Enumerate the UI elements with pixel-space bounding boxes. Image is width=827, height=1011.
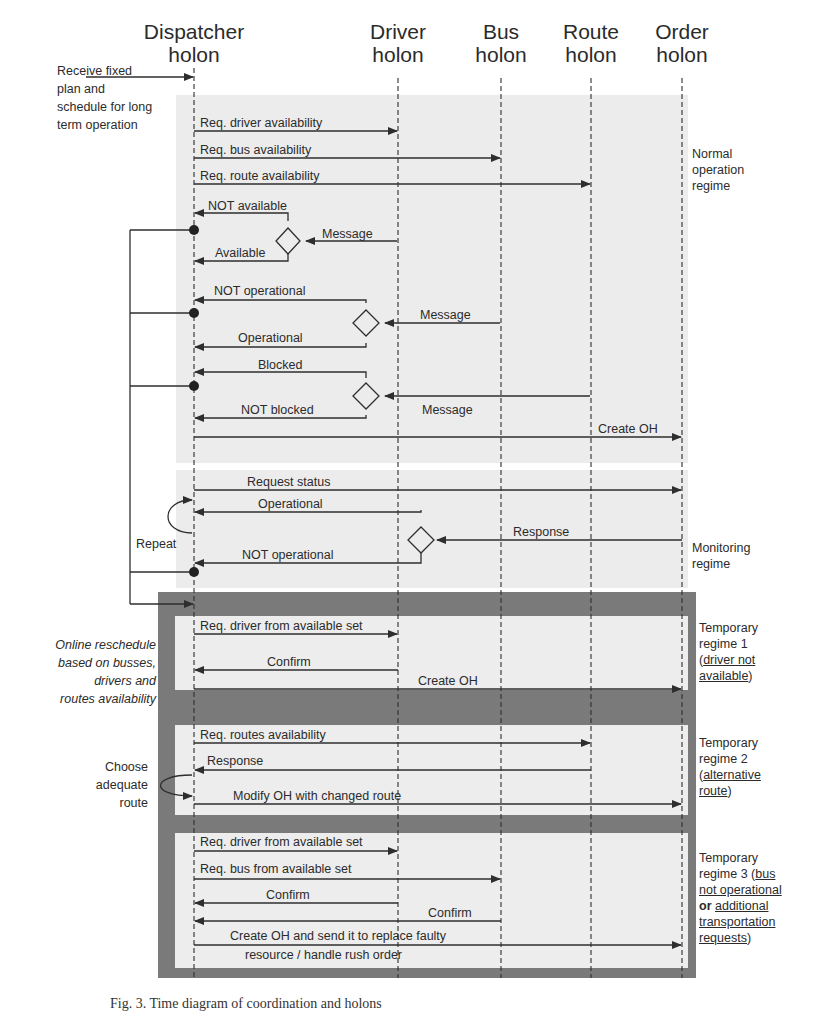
- choose-route-loop-arrow: [161, 775, 193, 796]
- temporary-regime-2-label: Temporary regime 2 (alternative route): [699, 735, 761, 799]
- msg-response: Response: [513, 525, 569, 539]
- decision-diamond-monitor: [408, 527, 434, 553]
- label-line: regime 2: [699, 751, 761, 767]
- note-line: Choose: [70, 758, 148, 776]
- label-line: Monitoring: [692, 540, 750, 556]
- label-condition: route: [699, 784, 728, 798]
- note-line: Online reschedule: [20, 636, 156, 654]
- monitoring-regime-label: Monitoring regime: [692, 540, 750, 572]
- label-line: Temporary: [699, 735, 761, 751]
- note-line: Receive fixed: [57, 62, 152, 80]
- label-condition: alternative: [703, 768, 761, 782]
- msg-t3-confirm-driver: Confirm: [266, 888, 310, 902]
- note-line: term operation: [57, 116, 152, 134]
- temporary-regime-3-label: Temporary regime 3 (bus not operational …: [699, 850, 782, 946]
- note-line: routes availability: [20, 690, 156, 708]
- note-line: drivers and: [20, 672, 156, 690]
- label-condition: additional: [715, 899, 769, 913]
- msg-driver-message: Message: [322, 227, 373, 241]
- normal-regime-label: Normal operation regime: [692, 146, 744, 194]
- msg-t1-create-oh: Create OH: [418, 674, 478, 688]
- label-line: route): [699, 783, 761, 799]
- intro-note: Receive fixed plan and schedule for long…: [57, 62, 152, 134]
- label-line: Temporary: [699, 850, 782, 866]
- msg-blocked: Blocked: [258, 358, 302, 372]
- msg-not-blocked: NOT blocked: [241, 403, 314, 417]
- decision-diamond-bus: [353, 310, 379, 336]
- label-line: regime: [692, 556, 750, 572]
- repeat-label: Repeat: [136, 537, 176, 551]
- msg-request-status: Request status: [247, 475, 330, 489]
- note-line: route: [70, 794, 148, 812]
- msg-t1-req-driver: Req. driver from available set: [200, 619, 363, 633]
- label-line: not operational: [699, 882, 782, 898]
- label-condition: not operational: [699, 883, 782, 897]
- msg-req-driver-availability: Req. driver availability: [200, 116, 322, 130]
- figure-caption: Fig. 3. Time diagram of coordination and…: [110, 996, 382, 1011]
- msg-create-oh: Create OH: [598, 422, 658, 436]
- label-line: regime: [692, 178, 744, 194]
- decision-diamond-route: [353, 383, 379, 409]
- note-line: plan and: [57, 80, 152, 98]
- online-reschedule-note: Online reschedule based on busses, drive…: [20, 636, 156, 708]
- note-line: based on busses,: [20, 654, 156, 672]
- label-condition: driver not: [703, 653, 755, 667]
- label-line: operation: [692, 162, 744, 178]
- choose-route-note: Choose adequate route: [70, 758, 148, 812]
- junction-dot: [189, 381, 199, 391]
- msg-not-operational: NOT operational: [214, 284, 306, 298]
- msg-req-route-availability: Req. route availability: [200, 169, 320, 183]
- label-condition: available: [699, 669, 748, 683]
- msg-t2-req-routes: Req. routes availability: [200, 728, 326, 742]
- junction-dot: [189, 567, 199, 577]
- label-line: (driver not: [699, 652, 758, 668]
- msg-t2-modify-oh: Modify OH with changed route: [233, 789, 401, 803]
- msg-req-bus-availability: Req. bus availability: [200, 143, 311, 157]
- msg-t3-req-driver: Req. driver from available set: [200, 835, 363, 849]
- label-text: regime 3 (: [699, 867, 755, 881]
- msg-t3-confirm-bus: Confirm: [428, 906, 472, 920]
- arrow-not-operational: [195, 300, 366, 303]
- note-line: adequate: [70, 776, 148, 794]
- note-line: schedule for long: [57, 98, 152, 116]
- label-line: (alternative: [699, 767, 761, 783]
- arrow-blocked: [195, 372, 366, 378]
- decision-diamond-driver: [276, 228, 300, 254]
- msg-bus-message: Message: [420, 308, 471, 322]
- msg-route-message: Message: [422, 403, 473, 417]
- label-or: or: [699, 899, 712, 913]
- msg-t3-create-oh-line1: Create OH and send it to replace faulty: [230, 929, 446, 943]
- msg-t1-confirm: Confirm: [267, 655, 311, 669]
- label-line: regime 3 (bus: [699, 866, 782, 882]
- label-line: Normal: [692, 146, 744, 162]
- temporary-regime-1-label: Temporary regime 1 (driver not available…: [699, 620, 758, 684]
- label-line: transportation: [699, 914, 782, 930]
- label-line: Temporary: [699, 620, 758, 636]
- msg-operational: Operational: [238, 331, 303, 345]
- msg-t3-req-bus: Req. bus from available set: [200, 862, 351, 876]
- label-line: or additional: [699, 898, 782, 914]
- msg-t2-response: Response: [207, 754, 263, 768]
- msg-monitor-not-operational: NOT operational: [242, 548, 334, 562]
- junction-dot: [189, 225, 199, 235]
- label-condition: transportation: [699, 915, 775, 929]
- arrow-not-available: [195, 213, 288, 221]
- label-condition: requests: [699, 931, 747, 945]
- msg-monitor-operational: Operational: [258, 497, 323, 511]
- msg-not-available: NOT available: [208, 199, 287, 213]
- repeat-loop-arrow: [168, 500, 192, 533]
- junction-dot: [189, 308, 199, 318]
- msg-available: Available: [215, 246, 266, 260]
- msg-t3-create-oh-line2: resource / handle rush order: [245, 948, 402, 962]
- label-line: available): [699, 668, 758, 684]
- label-condition: bus: [755, 867, 775, 881]
- label-line: regime 1: [699, 636, 758, 652]
- label-line: requests): [699, 930, 782, 946]
